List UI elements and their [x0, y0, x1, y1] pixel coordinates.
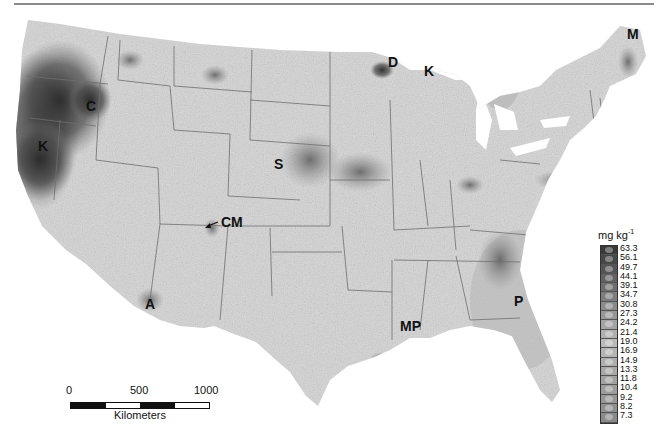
legend-unit-exponent: -1 — [628, 228, 634, 235]
scale-tick-0: 0 — [66, 384, 72, 396]
label-k-west: K — [38, 138, 48, 154]
legend-swatch — [601, 385, 617, 394]
label-k-north: K — [424, 63, 434, 79]
scale-bar-graphic — [70, 402, 210, 409]
legend-swatch — [601, 265, 617, 274]
legend-swatch — [601, 255, 617, 264]
legend-swatch — [601, 404, 617, 413]
legend-swatch — [601, 376, 617, 385]
label-s: S — [274, 156, 283, 172]
scale-unit: Kilometers — [114, 409, 166, 421]
scale-bar: 0 500 1000 Kilometers — [60, 384, 220, 424]
label-m: M — [627, 26, 639, 42]
legend-swatch — [601, 302, 617, 311]
label-d: D — [388, 54, 398, 70]
legend-swatch — [601, 246, 617, 255]
scale-tick-500: 500 — [130, 384, 148, 396]
legend-title: mg kg-1 — [598, 228, 634, 241]
legend-swatch — [601, 283, 617, 292]
legend-swatch — [601, 311, 617, 320]
legend-swatch — [601, 358, 617, 367]
legend-swatch — [601, 330, 617, 339]
legend-value: 7.3 — [620, 411, 638, 420]
legend-swatch — [601, 339, 617, 348]
legend-values: 63.356.149.744.139.134.730.827.324.221.4… — [620, 244, 638, 421]
label-p: P — [514, 293, 523, 309]
label-cm: CM — [221, 214, 243, 230]
label-c: C — [86, 98, 96, 114]
scale-tick-1000: 1000 — [194, 384, 218, 396]
legend-swatch — [601, 395, 617, 404]
legend-swatch — [601, 348, 617, 357]
label-a: A — [145, 296, 155, 312]
legend-swatch — [601, 320, 617, 329]
legend-unit: mg kg — [598, 229, 628, 241]
legend-color-ramp — [600, 245, 618, 424]
legend-swatch — [601, 367, 617, 376]
label-mp: MP — [400, 318, 421, 334]
us-map — [0, 0, 664, 444]
legend-swatch — [601, 274, 617, 283]
legend-swatch — [601, 292, 617, 301]
legend-swatch — [601, 413, 617, 422]
